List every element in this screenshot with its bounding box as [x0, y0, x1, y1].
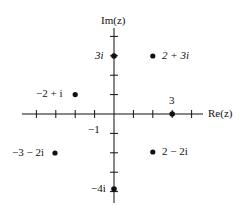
- label-3i: 3i: [95, 50, 104, 61]
- label-2-minus-2i: 2 − 2i: [162, 146, 188, 157]
- point-2-plus-3i: [150, 53, 155, 58]
- point-neg3-minus-2i: [52, 150, 57, 155]
- label-3: 3: [169, 95, 175, 106]
- point-neg4i: [111, 186, 117, 192]
- label-neg3-minus-2i: −3 − 2i: [12, 147, 44, 158]
- imaginary-axis-label: Im(z): [101, 15, 125, 26]
- tick-label-neg-one: −1: [88, 124, 100, 135]
- point-3i: [111, 53, 117, 59]
- point-3: [169, 111, 175, 117]
- label-neg4i: −4i: [91, 183, 106, 194]
- point-neg2-plus-i: [73, 92, 78, 97]
- label-2-plus-3i: 2 + 3i: [162, 50, 189, 61]
- real-axis-label: Re(z): [208, 108, 232, 119]
- label-neg2-plus-i: −2 + i: [36, 88, 62, 99]
- point-2-minus-2i: [150, 149, 155, 154]
